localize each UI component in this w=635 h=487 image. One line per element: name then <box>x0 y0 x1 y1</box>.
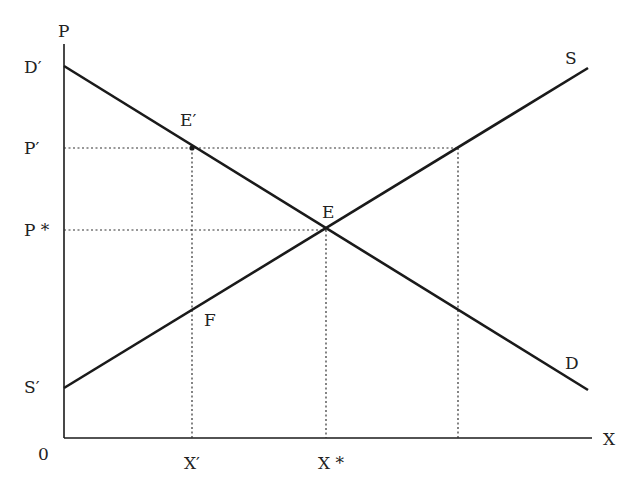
f-point-label: F <box>204 310 216 330</box>
supply-end-label: S <box>565 48 577 68</box>
e-prime-label: E′ <box>180 110 196 130</box>
origin-label: 0 <box>38 444 49 464</box>
e-prime-marker <box>189 145 194 150</box>
supply-demand-diagram: P X 0 D′ S′ S D P′ P * X′ X * E′ E F <box>0 0 635 487</box>
x-prime-label: X′ <box>184 453 200 473</box>
x-star-label: X * <box>318 453 345 473</box>
y-axis-label: P <box>58 21 69 41</box>
equilibrium-label: E <box>322 202 334 222</box>
p-prime-label: P′ <box>24 138 39 158</box>
demand-start-label: D′ <box>24 57 42 77</box>
p-star-label: P * <box>24 220 50 240</box>
x-axis-label: X <box>603 429 616 449</box>
demand-end-label: D <box>565 353 579 373</box>
supply-start-label: S′ <box>24 377 40 397</box>
